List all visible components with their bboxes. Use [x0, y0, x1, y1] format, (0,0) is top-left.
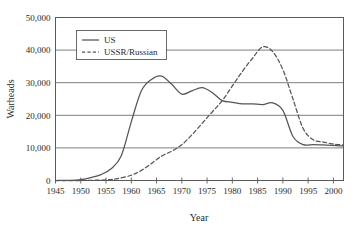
x-axis-tick-labels: 1945195019551960196519701975198019851990…: [47, 186, 343, 196]
y-tick-label: 0: [46, 176, 51, 186]
y-tick-label: 30,000: [26, 78, 51, 88]
x-tick-label: 1950: [72, 186, 91, 196]
warheads-line-chart: 010,00020,00030,00040,00050,000 19451950…: [0, 0, 355, 232]
x-tick-label: 1995: [299, 186, 318, 196]
y-tick-label: 20,000: [26, 111, 51, 121]
x-tick-label: 1955: [97, 186, 116, 196]
series-line-us: [56, 76, 344, 181]
chart-canvas: 010,00020,00030,00040,00050,000 19451950…: [0, 0, 355, 232]
x-tick-label: 1945: [47, 186, 66, 196]
y-tick-label: 10,000: [26, 143, 51, 153]
series-group: [56, 47, 344, 181]
x-tick-label: 1975: [198, 186, 217, 196]
y-axis-title: Warheads: [5, 79, 16, 118]
x-tick-label: 1960: [122, 186, 141, 196]
legend-label-us: US: [104, 35, 116, 45]
legend-label-ussr-russian: USSR/Russian: [104, 47, 158, 57]
x-tick-label: 1980: [223, 186, 242, 196]
gridlines-group: [56, 50, 344, 148]
chart-legend: US USSR/Russian: [77, 31, 167, 60]
x-tick-label: 1990: [274, 186, 293, 196]
x-tick-label: 1965: [148, 186, 167, 196]
x-axis-title: Year: [190, 212, 209, 223]
x-tick-label: 1985: [249, 186, 268, 196]
x-tick-label: 1970: [173, 186, 192, 196]
x-tick-label: 2000: [324, 186, 343, 196]
y-axis-tick-labels: 010,00020,00030,00040,00050,000: [26, 13, 51, 186]
series-line-ussr-russian: [56, 47, 344, 181]
y-tick-label: 50,000: [26, 13, 51, 23]
y-tick-label: 40,000: [26, 45, 51, 55]
